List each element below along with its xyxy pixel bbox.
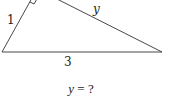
question-answer: ? [88,81,94,96]
label-short-leg: 1 [7,13,15,27]
question-text: y = ? [0,81,162,97]
question-variable: y [68,81,74,96]
side-unknown-leg [55,0,162,52]
question-operator: = [77,81,84,96]
triangle [2,0,162,52]
label-hypotenuse: 3 [64,55,72,69]
label-unknown-leg: y [92,2,100,16]
